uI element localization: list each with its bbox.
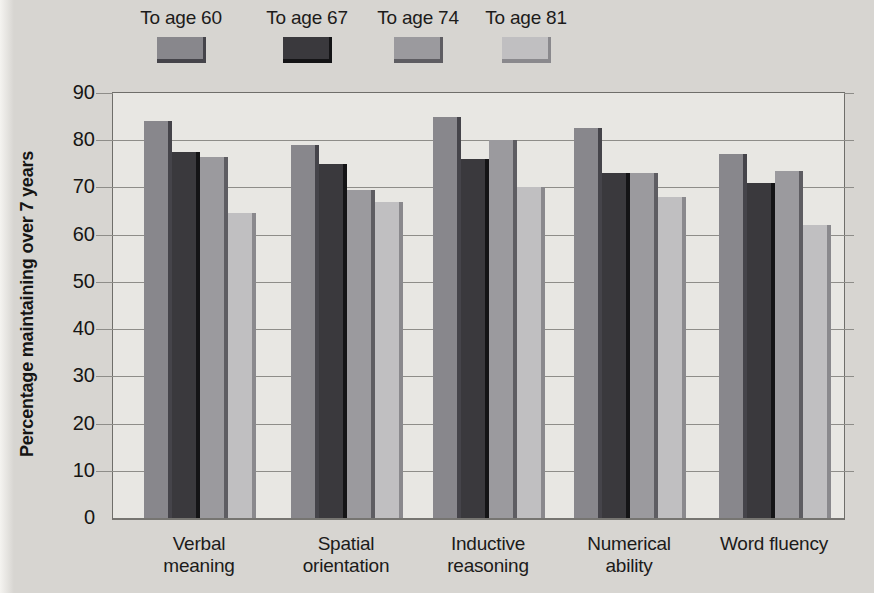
y-tick-label: 60 [35, 222, 95, 246]
legend-item: To age 60 [126, 6, 236, 63]
legend-swatch [157, 37, 206, 63]
legend-swatch [283, 37, 332, 63]
bar [200, 157, 228, 518]
bar [517, 187, 545, 518]
category-label: Inductive reasoning [426, 533, 550, 577]
bar [172, 152, 200, 518]
bar [375, 202, 403, 518]
legend-label: To age 74 [363, 6, 473, 30]
axis-tick [844, 376, 854, 377]
y-tick-label: 50 [35, 269, 95, 293]
bar [319, 164, 347, 518]
bar [461, 159, 489, 518]
axis-tick [96, 235, 113, 236]
bar [803, 225, 831, 518]
gridline [113, 140, 844, 141]
y-tick-label: 80 [35, 127, 95, 151]
legend-label: To age 67 [252, 6, 362, 30]
legend-label: To age 60 [126, 6, 236, 30]
axis-tick [96, 187, 113, 188]
legend-swatch [394, 37, 443, 63]
axis-tick [96, 424, 113, 425]
bar [630, 173, 658, 518]
legend-item: To age 74 [363, 6, 473, 63]
bar [228, 213, 256, 518]
legend-item: To age 67 [252, 6, 362, 63]
bar [347, 190, 375, 518]
bar [747, 183, 775, 518]
y-tick-label: 10 [35, 458, 95, 482]
category-label: Numerical ability [567, 533, 691, 577]
y-tick-label: 40 [35, 316, 95, 340]
legend-label: To age 81 [471, 6, 581, 30]
bar-chart-figure: To age 60To age 67To age 74To age 81 Per… [0, 0, 874, 593]
bar [719, 154, 747, 518]
category-label: Spatial orientation [284, 533, 408, 577]
axis-tick [844, 329, 854, 330]
axis-tick [96, 282, 113, 283]
y-tick-label: 70 [35, 174, 95, 198]
bar [574, 128, 602, 518]
axis-tick [844, 93, 854, 94]
bar [775, 171, 803, 518]
bar [489, 140, 517, 518]
plot-area [112, 92, 845, 520]
axis-tick [844, 235, 854, 236]
category-label: Word fluency [712, 533, 836, 555]
category-label: Verbal meaning [137, 533, 261, 577]
y-tick-label: 30 [35, 363, 95, 387]
bar [602, 173, 630, 518]
bar [658, 197, 686, 518]
axis-tick [844, 187, 854, 188]
axis-tick [96, 329, 113, 330]
legend-swatch [502, 37, 551, 63]
bar [433, 117, 461, 518]
axis-tick [844, 471, 854, 472]
y-tick-label: 90 [35, 80, 95, 104]
axis-tick [96, 93, 113, 94]
y-tick-label: 20 [35, 411, 95, 435]
axis-tick [844, 282, 854, 283]
axis-tick [96, 140, 113, 141]
bar [291, 145, 319, 518]
axis-tick [844, 424, 854, 425]
axis-tick [96, 376, 113, 377]
bar [144, 121, 172, 518]
axis-tick [96, 471, 113, 472]
y-tick-label: 0 [35, 505, 95, 529]
axis-tick [844, 140, 854, 141]
legend-item: To age 81 [471, 6, 581, 63]
